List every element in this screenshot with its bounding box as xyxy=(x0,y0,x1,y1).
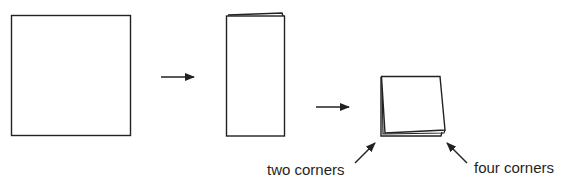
pointer-arrow-icon-two-corners xyxy=(355,143,375,163)
pointer-arrow-icon-four-corners xyxy=(447,143,467,163)
folding-diagram xyxy=(0,0,574,185)
step-2-folded-rectangle xyxy=(227,13,285,136)
label-two-corners: two corners xyxy=(267,162,345,177)
step-1-square-sheet xyxy=(12,16,131,136)
step-3-folded-square xyxy=(381,77,445,137)
label-four-corners: four corners xyxy=(474,160,554,175)
